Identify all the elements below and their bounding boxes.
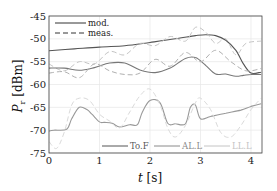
chart-background xyxy=(0,0,277,191)
legend-label-all: AL.L xyxy=(181,141,202,151)
y-tick-label: -75 xyxy=(30,148,46,159)
x-tick-label: 4 xyxy=(248,155,254,166)
y-tick-label: -60 xyxy=(30,79,46,90)
legend-label-meas: meas. xyxy=(88,28,113,38)
received-power-chart: 01234-45-50-55-60-65-70-75 mod. meas. To… xyxy=(0,0,277,191)
x-tick-label: 0 xyxy=(46,155,52,166)
y-axis-label: Pr [dBm] xyxy=(11,60,27,114)
x-axis-label: t [s] xyxy=(138,171,162,185)
x-tick-label: 3 xyxy=(197,155,203,166)
y-tick-label: -70 xyxy=(30,125,46,136)
y-tick-label: -65 xyxy=(30,102,46,113)
y-tick-label: -45 xyxy=(30,11,46,22)
y-tick-label: -55 xyxy=(30,56,46,67)
legend-label-tof: To.F xyxy=(130,141,149,151)
x-tick-label: 2 xyxy=(147,155,153,166)
y-tick-label: -50 xyxy=(30,33,46,44)
legend-label-mod: mod. xyxy=(88,18,109,28)
legend-label-lll: LL.L xyxy=(232,141,252,151)
x-tick-label: 1 xyxy=(96,155,102,166)
